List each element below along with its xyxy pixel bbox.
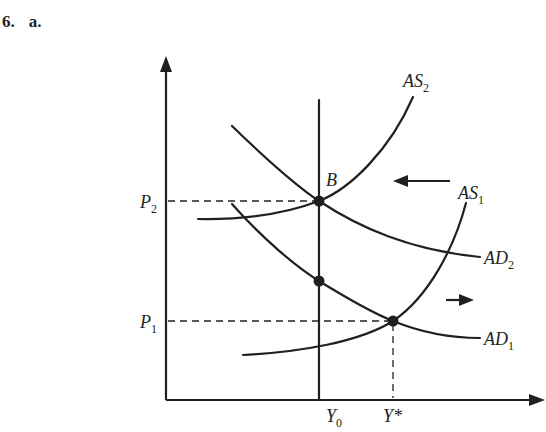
y0-label: Y0	[326, 406, 342, 430]
ad1-label: AD1	[483, 329, 514, 353]
question-part: a.	[29, 12, 42, 31]
as1-label: AS1	[457, 183, 484, 207]
y-axis-arrowhead-icon	[160, 56, 172, 72]
ad-as-diagram: AS2 AS1 AD2 AD1 B P2 P1 Y0 Y*	[0, 0, 546, 432]
x-axis-arrowhead-icon	[529, 394, 545, 406]
as2-label: AS2	[402, 71, 429, 95]
midpoint-dot	[314, 276, 325, 287]
ad1-curve	[232, 204, 480, 338]
point-b-label: B	[326, 170, 337, 190]
question-heading: 6.a.	[2, 12, 42, 32]
point-b-dot	[314, 196, 325, 207]
ad2-label: AD2	[483, 248, 514, 272]
ad2-curve	[232, 126, 480, 257]
p1-label: P1	[139, 312, 157, 336]
p2-label: P2	[139, 192, 157, 216]
point-ystar-dot	[388, 316, 399, 327]
question-number: 6.	[2, 12, 15, 31]
ad-shift-right-arrow-icon	[446, 294, 474, 306]
ystar-label: Y*	[383, 406, 402, 426]
diagram-figure: 6.a.	[0, 0, 546, 432]
as-shift-left-arrow-icon	[393, 175, 450, 187]
